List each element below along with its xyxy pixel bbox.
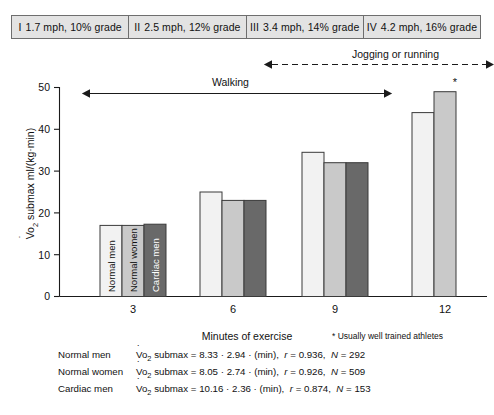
equation-body-normal-men: Vo2 submax = 8.33 · 2.94 · (min), r = 0.…: [136, 348, 478, 365]
bar-9min-normal-women: [324, 163, 346, 297]
bar-label-normal-women: Normal women: [128, 228, 139, 292]
bar-12min-normal-women: [434, 92, 456, 297]
eq-r-op-0: =: [290, 349, 296, 360]
xtick-label-9: 9: [332, 303, 338, 315]
eq-n-op-2: =: [346, 383, 352, 394]
ytick-label-0: 0: [44, 290, 50, 302]
eq-r-value-1: 0.926,: [299, 366, 326, 377]
eq-dot1-0: ·: [221, 349, 224, 360]
bar-9min-cardiac-men: [346, 163, 368, 297]
eq-r-label-1: r: [284, 366, 287, 377]
eq-n-label-2: N: [336, 383, 343, 394]
eq-dot2-1: ·: [248, 366, 251, 377]
eq-dot1-1: ·: [221, 366, 224, 377]
eq-dot2-2: ·: [254, 383, 257, 394]
y-axis-ticks: 0 10 20 30 40 50: [38, 81, 59, 302]
bar-group-9min: [302, 152, 368, 296]
eq-x-0: (min),: [254, 349, 279, 360]
eq-b-1: 2.74: [227, 366, 246, 377]
eq-a-1: 8.05: [199, 366, 218, 377]
eq-n-label-0: N: [331, 349, 338, 360]
eq-b-0: 2.94: [227, 349, 246, 360]
bar-9min-normal-men: [302, 152, 324, 296]
eq-n-label-1: N: [331, 366, 338, 377]
ytick-label-40: 40: [38, 123, 50, 135]
eq-dot2-0: ·: [248, 349, 251, 360]
eq-r-op-2: =: [296, 383, 302, 394]
eq-n-value-0: 292: [349, 349, 365, 360]
eq-n-op-0: =: [341, 349, 347, 360]
equation-name-normal-women: Normal women: [58, 365, 136, 382]
eq-r-value-2: 0.874,: [304, 383, 331, 394]
eq-r-op-1: =: [290, 366, 296, 377]
x-axis-ticks: 3 6 9 12: [130, 303, 451, 315]
xtick-label-12: 12: [439, 303, 451, 315]
eq-n-value-1: 509: [349, 366, 365, 377]
figure-vo2-submax-chart: I 1.7 mph, 10% grade II 2.5 mph, 12% gra…: [0, 0, 494, 415]
bar-label-normal-men: Normal men: [106, 240, 117, 292]
eq-lhs-2: submax: [154, 383, 188, 394]
eq-op-1: =: [191, 366, 197, 377]
equation-body-normal-women: Vo2 submax = 8.05 · 2.74 · (min), r = 0.…: [136, 365, 478, 382]
eq-x-2: (min),: [260, 383, 285, 394]
ytick-label-50: 50: [38, 81, 50, 93]
eq-r-value-0: 0.936,: [299, 349, 326, 360]
asterisk-marker: *: [453, 76, 458, 88]
eq-a-2: 10.16: [199, 383, 223, 394]
eq-lhs-0: submax: [154, 349, 188, 360]
eq-r-label-2: r: [290, 383, 293, 394]
eq-n-op-1: =: [341, 366, 347, 377]
eq-dot1-2: ·: [226, 383, 229, 394]
equation-body-cardiac-men: Vo2 submax = 10.16 · 2.36 · (min), r = 0…: [136, 382, 478, 399]
ytick-label-20: 20: [38, 207, 50, 219]
equation-row-cardiac-men: Cardiac men Vo2 submax = 10.16 · 2.36 · …: [58, 382, 478, 399]
eq-op-0: =: [191, 349, 197, 360]
equation-name-normal-men: Normal men: [58, 348, 136, 365]
eq-b-2: 2.36: [232, 383, 251, 394]
bar-6min-normal-women: [222, 200, 244, 296]
eq-x-1: (min),: [254, 366, 279, 377]
y-axis-label: Vo2 submax ml/(kg·min): [24, 84, 39, 284]
bar-group-12min: *: [412, 76, 458, 297]
bar-6min-normal-men: [200, 192, 222, 297]
bar-group-3min: Normal men Normal women Cardiac men: [100, 224, 166, 296]
eq-r-label-0: r: [284, 349, 287, 360]
equation-name-cardiac-men: Cardiac men: [58, 382, 136, 399]
ytick-label-10: 10: [38, 249, 50, 261]
xtick-label-3: 3: [130, 303, 136, 315]
asterisk-footnote: * Usually well trained athletes: [332, 331, 443, 341]
xtick-label-6: 6: [230, 303, 236, 315]
equation-row-normal-men: Normal men Vo2 submax = 8.33 · 2.94 · (m…: [58, 348, 478, 365]
regression-equations: Normal men Vo2 submax = 8.33 · 2.94 · (m…: [58, 348, 478, 398]
eq-lhs-1: submax: [154, 366, 188, 377]
bar-6min-cardiac-men: [244, 200, 266, 296]
bar-group-6min: [200, 192, 266, 297]
ytick-label-30: 30: [38, 165, 50, 177]
eq-op-2: =: [191, 383, 197, 394]
eq-a-0: 8.33: [199, 349, 218, 360]
bar-12min-normal-men: [412, 113, 434, 297]
equation-row-normal-women: Normal women Vo2 submax = 8.05 · 2.74 · …: [58, 365, 478, 382]
eq-n-value-2: 153: [354, 383, 370, 394]
bar-label-cardiac-men: Cardiac men: [150, 238, 161, 292]
